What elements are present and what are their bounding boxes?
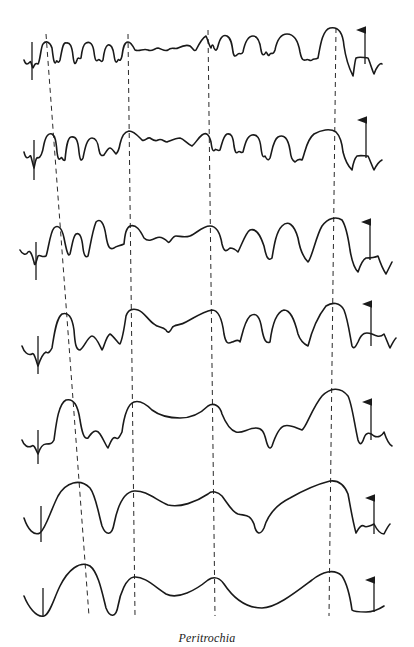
alignment-line-3: [208, 30, 215, 616]
wave-figure: [0, 0, 414, 647]
trace-1: [24, 28, 382, 80]
alignment-line-1: [46, 34, 89, 616]
trace-3: [20, 218, 392, 280]
waveform-path: [20, 218, 392, 274]
waveform-path: [22, 389, 392, 454]
trace-5: [22, 389, 392, 464]
trace-4: [22, 303, 396, 374]
trace-6: [24, 481, 390, 542]
waveform-path: [22, 303, 396, 366]
alignment-line-4: [329, 28, 336, 616]
figure-caption: Peritrochia: [0, 631, 414, 646]
alignment-line-2: [128, 34, 135, 616]
alignment-lines: [46, 28, 336, 616]
waveform-path: [24, 564, 384, 616]
waveform-path: [24, 130, 382, 170]
trace-7: [24, 564, 384, 616]
waveform-path: [24, 28, 382, 76]
waveform-path: [24, 481, 390, 534]
trace-2: [24, 120, 382, 180]
